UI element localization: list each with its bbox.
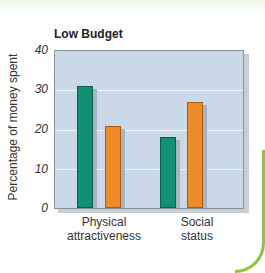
x-label-line: status <box>162 229 232 243</box>
x-label-line: Social <box>162 215 232 229</box>
x-label-line: Physical <box>54 215 154 229</box>
bar-green-physical-attractiveness <box>77 86 93 208</box>
y-tick-0: 0 <box>28 201 48 215</box>
top-fade-decoration <box>0 0 265 14</box>
x-label-line: attractiveness <box>54 229 154 243</box>
y-tick-20: 20 <box>28 122 48 136</box>
x-label-physical-attractiveness: Physical attractiveness <box>54 215 154 243</box>
y-tick-40: 40 <box>28 43 48 57</box>
y-axis-label: Percentage of money spent <box>6 47 20 207</box>
plot-area <box>54 50 244 209</box>
bar-green-social-status <box>160 137 176 208</box>
bar-orange-physical-attractiveness <box>105 126 121 208</box>
chart-title: Low Budget <box>54 27 123 41</box>
x-label-social-status: Social status <box>162 215 232 243</box>
y-tick-10: 10 <box>28 162 48 176</box>
bar-orange-social-status <box>187 102 203 208</box>
y-tick-30: 30 <box>28 82 48 96</box>
